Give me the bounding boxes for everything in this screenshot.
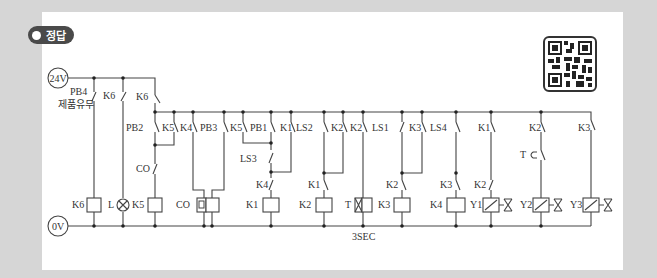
svg-text:PB3: PB3 (200, 122, 217, 133)
svg-text:K2: K2 (350, 122, 362, 133)
k2-coil (316, 198, 332, 212)
svg-text:K6: K6 (72, 199, 84, 210)
svg-text:K2: K2 (386, 179, 398, 190)
svg-text:CO: CO (136, 163, 150, 174)
ladder-diagram: 24V 0V PB4 제품유무 K6 K6 L K6 PB2 K5 CO K5 … (0, 0, 657, 278)
svg-text:LS2: LS2 (296, 122, 313, 133)
product-presence-label: 제품유무 (58, 99, 94, 110)
svg-text:K2: K2 (331, 122, 343, 133)
k5-coil (148, 198, 162, 212)
svg-text:K1: K1 (308, 179, 320, 190)
svg-text:T: T (345, 199, 351, 210)
svg-text:CO: CO (176, 199, 190, 210)
k4-coil (447, 198, 465, 212)
svg-text:LS4: LS4 (430, 122, 447, 133)
svg-text:K6: K6 (103, 90, 115, 101)
svg-text:Y3: Y3 (570, 199, 582, 210)
pb4-label: PB4 (70, 86, 87, 97)
power-0v: 0V (48, 216, 68, 236)
svg-text:LS1: LS1 (372, 122, 389, 133)
svg-text:K1: K1 (478, 122, 490, 133)
svg-text:K2: K2 (299, 199, 311, 210)
svg-text:K5: K5 (230, 122, 242, 133)
svg-text:T: T (520, 149, 526, 160)
co-coil-reset (206, 198, 219, 212)
timer-setting-label: 3SEC (352, 231, 376, 242)
svg-text:LS3: LS3 (240, 153, 257, 164)
svg-text:K2: K2 (529, 122, 541, 133)
svg-text:K4: K4 (430, 199, 442, 210)
svg-text:K3: K3 (409, 122, 421, 133)
svg-text:K4: K4 (180, 122, 192, 133)
svg-text:K3: K3 (378, 199, 390, 210)
k1-coil (263, 198, 279, 212)
svg-text:K3: K3 (578, 122, 590, 133)
co-coil-set (197, 198, 206, 212)
svg-text:PB2: PB2 (126, 122, 143, 133)
svg-text:Y1: Y1 (470, 199, 482, 210)
svg-text:K4: K4 (256, 179, 268, 190)
svg-text:K1: K1 (246, 199, 258, 210)
svg-text:K2: K2 (474, 179, 486, 190)
k3-coil (394, 198, 410, 212)
svg-text:K6: K6 (136, 91, 148, 102)
svg-text:0V: 0V (52, 221, 65, 232)
svg-text:Y2: Y2 (520, 199, 532, 210)
k6-coil (87, 198, 101, 212)
svg-text:K5: K5 (162, 122, 174, 133)
svg-text:K3: K3 (440, 179, 452, 190)
svg-text:24V: 24V (49, 73, 67, 84)
svg-text:K1: K1 (280, 122, 292, 133)
power-24v: 24V (48, 68, 68, 88)
svg-text:PB1: PB1 (250, 122, 267, 133)
svg-text:L: L (108, 199, 114, 210)
svg-text:K5: K5 (132, 199, 144, 210)
